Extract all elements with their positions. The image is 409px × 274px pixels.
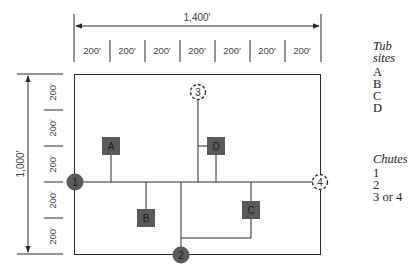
tub-site-c: C: [242, 201, 260, 219]
tub-site-item: D: [373, 102, 395, 114]
chute-4: 4: [313, 175, 328, 190]
svg-text:2: 2: [178, 250, 184, 261]
site-layout-diagram: 1,400′ 200′ 200′ 200′ 200′ 200′ 200′ 200…: [0, 0, 409, 274]
width-segment-label: 200′: [293, 45, 311, 56]
svg-text:D: D: [212, 141, 219, 152]
width-segment-label: 200′: [83, 45, 101, 56]
chute-item: 3 or 4: [373, 191, 408, 203]
chute-1: 1: [67, 174, 84, 191]
width-segment-label: 200′: [188, 45, 206, 56]
tub-site-b: B: [137, 209, 155, 227]
width-segment-label: 200′: [258, 45, 276, 56]
width-total-label: 1,400′: [184, 12, 211, 23]
network-lines: [74, 75, 321, 255]
chute-2: 2: [173, 247, 190, 264]
height-segment-label: 200′: [47, 155, 58, 173]
height-segment-label: 200′: [47, 227, 58, 245]
height-total-label: 1,000′: [15, 150, 26, 177]
height-segment-label: 200′: [47, 191, 58, 209]
tub-sites-legend: Tub sites A B C D: [373, 40, 395, 114]
width-segment-label: 200′: [118, 45, 136, 56]
height-segment-label: 200′: [47, 83, 58, 101]
chute-3: 3: [191, 85, 206, 100]
chutes-title: Chutes: [373, 153, 408, 165]
tub-site-d: D: [207, 137, 225, 155]
tub-sites-title: sites: [373, 52, 395, 64]
chutes-legend: Chutes 1 2 3 or 4: [373, 153, 408, 203]
tub-site-a: A: [102, 137, 120, 155]
svg-text:1: 1: [72, 177, 78, 188]
height-segment-label: 200′: [47, 119, 58, 137]
width-segment-label: 200′: [153, 45, 171, 56]
svg-text:C: C: [247, 205, 254, 216]
svg-text:A: A: [108, 141, 115, 152]
svg-text:4: 4: [317, 177, 323, 188]
width-segment-label: 200′: [223, 45, 241, 56]
svg-text:3: 3: [195, 87, 201, 98]
svg-text:B: B: [143, 213, 150, 224]
